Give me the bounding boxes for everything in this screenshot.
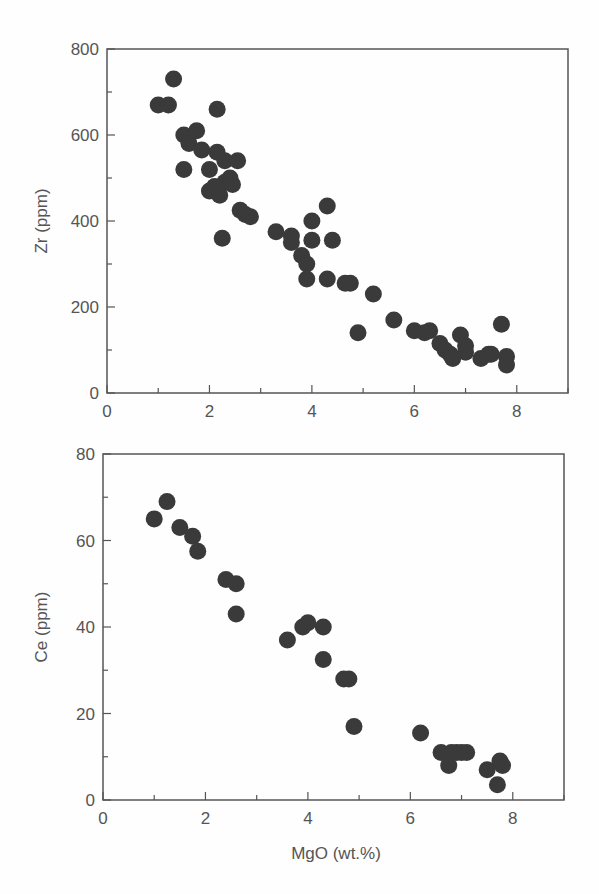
data-point [365, 286, 382, 303]
y-tick-label: 400 [71, 212, 99, 231]
data-point [498, 357, 515, 374]
data-point [489, 776, 506, 793]
y-tick-label: 40 [76, 618, 95, 637]
x-tick-label: 8 [512, 402, 521, 421]
data-point [229, 152, 246, 169]
data-point [315, 619, 332, 636]
data-point [268, 223, 285, 240]
data-point [494, 757, 511, 774]
data-point [340, 670, 357, 687]
data-point [324, 232, 341, 249]
data-point [298, 256, 315, 273]
ce-vs-mgo-panel: 02468020406080 [76, 445, 564, 828]
data-point [228, 606, 245, 623]
data-point [184, 528, 201, 545]
data-point [298, 271, 315, 288]
scatter-chart-figure: 024680200400600800 02468020406080 Zr (pp… [0, 0, 599, 894]
x-tick-label: 0 [98, 809, 107, 828]
x-tick-label: 8 [508, 809, 517, 828]
data-point [457, 344, 474, 361]
x-tick-label: 6 [410, 402, 419, 421]
x-tick-label: 0 [102, 402, 111, 421]
y-tick-label: 600 [71, 126, 99, 145]
data-point [175, 161, 192, 178]
y-tick-label: 0 [90, 384, 99, 403]
data-point [189, 543, 206, 560]
data-point [228, 575, 245, 592]
data-point [458, 744, 475, 761]
data-point [303, 232, 320, 249]
data-point [342, 275, 359, 292]
data-point [160, 96, 177, 113]
data-point [385, 311, 402, 328]
data-point [159, 493, 176, 510]
x-tick-label: 6 [406, 809, 415, 828]
data-point [214, 230, 231, 247]
y-tick-label: 60 [76, 532, 95, 551]
x-tick-label: 4 [303, 809, 312, 828]
data-point [483, 346, 500, 363]
y-axis-title-ce: Ce (ppm) [32, 592, 51, 663]
data-point [412, 724, 429, 741]
data-point [493, 316, 510, 333]
data-point [279, 631, 296, 648]
data-point [303, 213, 320, 230]
x-tick-label: 2 [201, 809, 210, 828]
data-point [193, 142, 210, 159]
y-tick-label: 20 [76, 705, 95, 724]
data-point [299, 614, 316, 631]
zr-vs-mgo-panel: 024680200400600800 [71, 40, 568, 421]
data-point [345, 718, 362, 735]
data-point [224, 176, 241, 193]
x-tick-label: 2 [205, 402, 214, 421]
data-point [349, 324, 366, 341]
data-point [165, 71, 182, 88]
y-tick-label: 200 [71, 298, 99, 317]
x-tick-label: 4 [307, 402, 316, 421]
data-point [319, 271, 336, 288]
x-axis-title-mgo: MgO (wt.%) [291, 844, 381, 863]
data-point [146, 510, 163, 527]
data-point [319, 197, 336, 214]
data-point [201, 161, 218, 178]
data-point [188, 122, 205, 139]
data-point [209, 101, 226, 118]
y-tick-label: 80 [76, 445, 95, 464]
y-tick-label: 0 [86, 791, 95, 810]
plot-frame [107, 49, 568, 393]
y-axis-title-zr: Zr (ppm) [32, 188, 51, 253]
data-point [315, 651, 332, 668]
data-point [242, 208, 259, 225]
y-tick-label: 800 [71, 40, 99, 59]
